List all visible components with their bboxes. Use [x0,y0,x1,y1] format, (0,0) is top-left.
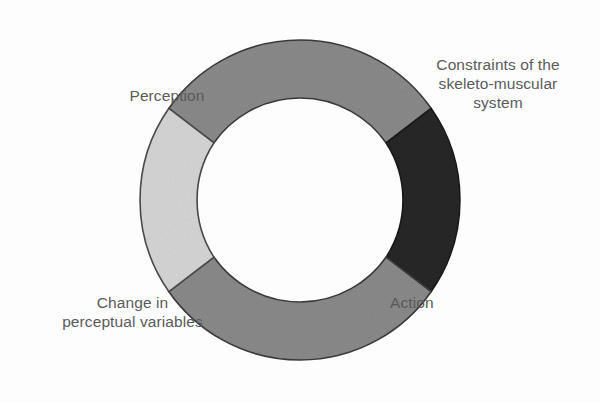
cycle-segment-left [140,108,214,291]
label-action: Action [390,293,510,312]
label-change: Change in perceptual variables [30,293,235,331]
label-perception: Perception [92,86,242,105]
cycle-segment-right [386,108,460,291]
label-constraints: Constraints of the skeleto-muscular syst… [408,55,588,112]
